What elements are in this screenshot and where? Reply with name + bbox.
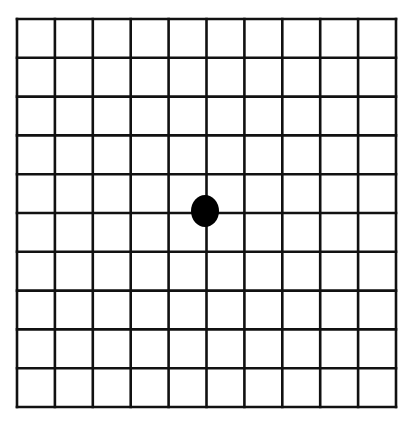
center-fixation-dot bbox=[191, 195, 219, 227]
amsler-grid bbox=[0, 0, 416, 424]
